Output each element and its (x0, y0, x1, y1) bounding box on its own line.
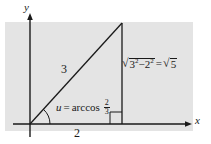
y-axis (27, 13, 33, 137)
formula-equals-sign: = (156, 58, 162, 69)
x-axis (13, 121, 192, 127)
x-axis-arrow-icon (185, 121, 192, 127)
radicand-left: 32−22 (129, 58, 155, 70)
angle-fraction-denominator: 3 (104, 108, 110, 116)
radicand-result: 5 (170, 58, 178, 70)
angle-equals-sign: = (64, 102, 70, 113)
math-figure: y x 3 2 u = arccos 2 3 √ 32−22 = √ 5 (0, 0, 211, 144)
angle-equation-label: u = arccos 2 3 (56, 99, 110, 117)
angle-fraction: 2 3 (104, 99, 110, 117)
radicand-exponent-b: 2 (150, 57, 154, 65)
y-axis-arrow-icon (27, 13, 33, 20)
radical-expression-left: √ 32−22 (122, 57, 155, 70)
x-axis-label: x (195, 115, 200, 126)
radical-symbol-result-icon: √ (163, 57, 170, 69)
radical-symbol-icon: √ (122, 57, 129, 69)
base-length-label: 2 (74, 127, 80, 139)
hypotenuse-length-label: 3 (61, 63, 67, 75)
right-angle-marker-icon (110, 112, 122, 124)
arccos-function-name: arccos (72, 102, 100, 113)
opposite-side-formula-label: √ 32−22 = √ 5 (122, 57, 177, 70)
radical-expression-right: √ 5 (163, 57, 177, 70)
angle-arc-icon (44, 109, 51, 124)
y-axis-label: y (24, 2, 29, 13)
figure-linework (0, 0, 211, 144)
angle-variable: u (56, 102, 62, 113)
